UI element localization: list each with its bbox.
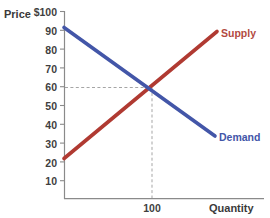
y-tick-label-90: 90 [7, 26, 57, 37]
y-tick-label-80: 80 [7, 45, 57, 56]
quantity-axis-title: Quantity [209, 203, 254, 214]
y-tick-label-10: 10 [7, 176, 57, 187]
supply-series-label: Supply [221, 28, 256, 39]
y-tick-label-60: 60 [7, 82, 57, 93]
x-tick-label-100: 100 [132, 203, 172, 214]
demand-series-label: Demand [219, 132, 260, 143]
y-tick-label-50: 50 [7, 101, 57, 112]
y-tick-label-20: 20 [7, 158, 57, 169]
y-tick-label-30: 30 [7, 139, 57, 150]
supply-demand-chart: Price Quantity $100 90 80 70 60 50 40 30… [0, 0, 270, 218]
y-tick-label-40: 40 [7, 120, 57, 131]
y-tick-label-100: $100 [7, 7, 57, 18]
y-tick-label-70: 70 [7, 64, 57, 75]
